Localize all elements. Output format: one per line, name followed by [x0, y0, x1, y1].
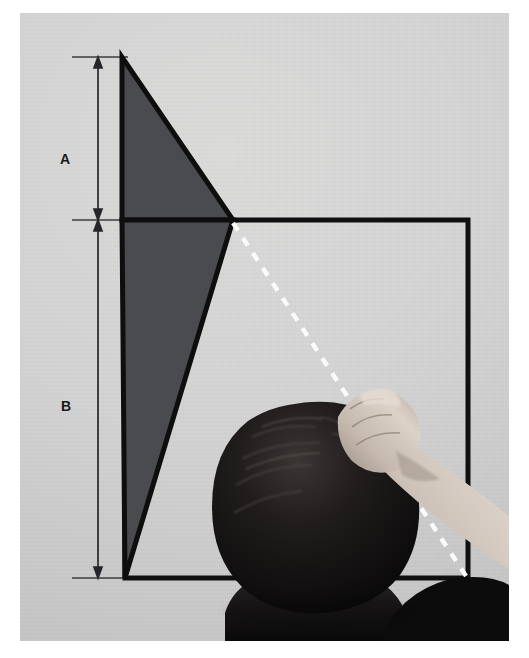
screenshot-page: A B — [0, 0, 529, 658]
photograph: A B — [20, 13, 509, 641]
head-shadow — [224, 595, 416, 627]
dimension-label-a: A — [60, 152, 70, 166]
dimension-label-b: B — [61, 399, 71, 413]
person-foreground — [20, 13, 509, 641]
